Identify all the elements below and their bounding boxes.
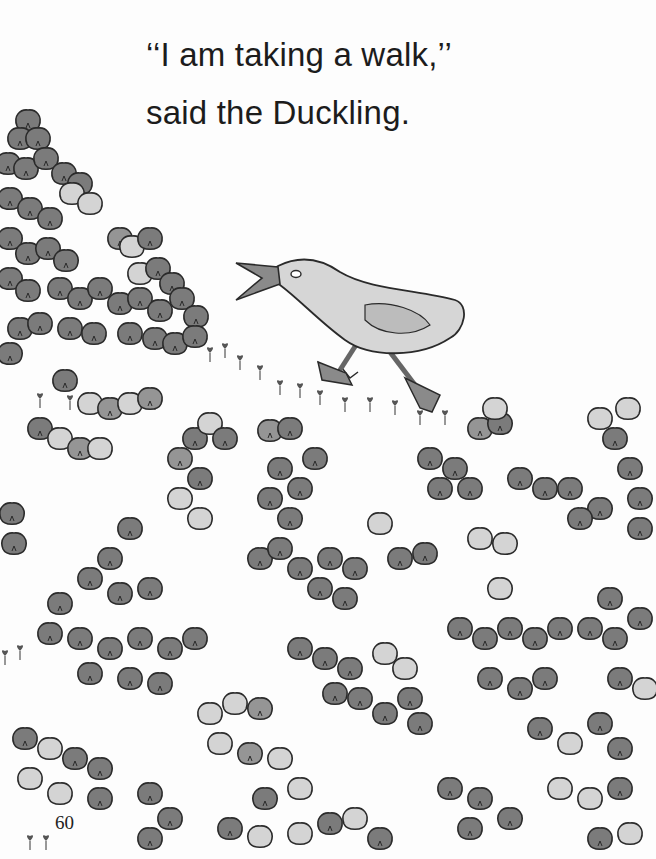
page-number: 60	[55, 812, 74, 834]
book-page: ‘‘I am taking a walk,’’ said the Ducklin…	[0, 0, 656, 859]
story-line-1: ‘‘I am taking a walk,’’	[146, 26, 452, 84]
clover-cluster-left-top	[0, 110, 208, 364]
clover-cluster-middle	[0, 370, 652, 554]
clover-cluster-bottom	[13, 693, 642, 849]
clover-cluster-lower	[38, 518, 656, 734]
story-line-2: said the Duckling.	[146, 84, 452, 142]
duckling	[236, 259, 464, 412]
story-text: ‘‘I am taking a walk,’’ said the Ducklin…	[146, 26, 452, 142]
